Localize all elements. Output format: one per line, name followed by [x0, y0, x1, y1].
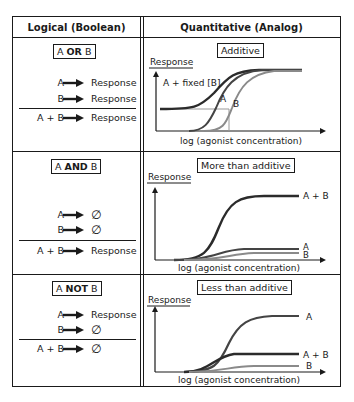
- column-divider-1: [140, 17, 141, 386]
- row-not-logic: A NOT B A Response B ∅ A + B ∅: [13, 275, 140, 387]
- logic-line: B ∅: [13, 223, 140, 237]
- svg-text:log (agonist concentration): log (agonist concentration): [180, 136, 302, 146]
- row-or-logic: A OR B A Response B Response A + B Respo…: [13, 38, 140, 151]
- gate-or-label: A OR B: [53, 44, 96, 59]
- logic-line-sum: A + B ∅: [13, 342, 140, 356]
- header-quantitative: Quantitative (Analog): [143, 17, 340, 38]
- svg-text:log (agonist concentration): log (agonist concentration): [178, 263, 300, 273]
- arrow-icon: [63, 114, 85, 122]
- svg-text:Response: Response: [150, 57, 194, 67]
- arrow-icon: [63, 211, 85, 219]
- sum-divider: [19, 339, 136, 340]
- arrow-icon: [63, 95, 85, 103]
- arrow-icon: [63, 311, 85, 319]
- logic-line-sum: A + B Response: [13, 244, 140, 258]
- more-than-additive-chart: Response A + B A B log (agonist concentr…: [144, 152, 340, 274]
- logic-line: A Response: [13, 308, 140, 322]
- logic-line: B Response: [13, 92, 140, 106]
- arrow-icon: [63, 345, 85, 353]
- row-not-chart: Less than additive Response A A + B B lo…: [144, 275, 340, 387]
- svg-text:A: A: [306, 312, 313, 322]
- svg-text:Response: Response: [148, 295, 192, 305]
- svg-text:A: A: [220, 94, 227, 104]
- empty-set-icon: ∅: [91, 323, 101, 337]
- empty-set-icon: ∅: [91, 208, 101, 222]
- gate-not-label: A NOT B: [52, 281, 102, 296]
- comparison-table: Logical (Boolean) Quantitative (Analog) …: [12, 16, 341, 387]
- logic-line-sum: A + B Response: [13, 111, 140, 125]
- less-than-additive-chart: Response A A + B B log (agonist concentr…: [144, 275, 340, 387]
- empty-set-icon: ∅: [91, 223, 101, 237]
- row-or-chart: Additive Response A + fixed [B] A B log …: [144, 38, 340, 151]
- svg-text:B: B: [303, 250, 309, 260]
- svg-text:log (agonist concentration): log (agonist concentration): [178, 375, 300, 385]
- logic-line: A ∅: [13, 208, 140, 222]
- sum-divider: [19, 108, 136, 109]
- arrow-icon: [63, 247, 85, 255]
- header-logical: Logical (Boolean): [13, 17, 140, 38]
- gate-and-label: A AND B: [51, 159, 101, 174]
- sum-divider: [19, 240, 136, 241]
- svg-text:Response: Response: [148, 172, 192, 182]
- svg-text:A + B: A + B: [303, 191, 329, 201]
- svg-text:B: B: [306, 361, 312, 371]
- additive-chart: Response A + fixed [B] A B log (agonist …: [144, 38, 340, 151]
- logic-line: B ∅: [13, 323, 140, 337]
- arrow-icon: [63, 226, 85, 234]
- arrow-icon: [63, 79, 85, 87]
- row-and-chart: More than additive Response A + B A B lo…: [144, 152, 340, 274]
- logic-line: A Response: [13, 76, 140, 90]
- svg-text:A + fixed [B]: A + fixed [B]: [163, 78, 220, 88]
- row-and-logic: A AND B A ∅ B ∅ A + B Response: [13, 152, 140, 274]
- svg-text:B: B: [233, 99, 239, 109]
- svg-text:A + B: A + B: [303, 350, 329, 360]
- empty-set-icon: ∅: [91, 342, 101, 356]
- arrow-icon: [63, 326, 85, 334]
